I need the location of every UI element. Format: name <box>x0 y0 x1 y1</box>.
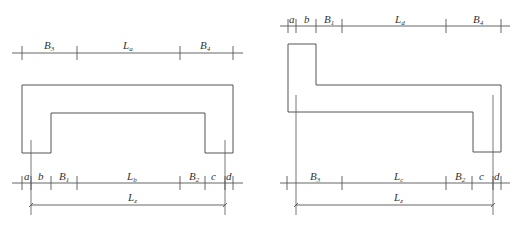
left-overall-dimension: Lz <box>29 191 227 207</box>
left-top-dimension: B3 La B4 <box>12 39 243 60</box>
dim-label-B3: B3 <box>310 170 321 184</box>
dim-label-Lc: Lc <box>393 170 404 184</box>
left-figure: B3 La B4 a b B1 Lb B2 c d <box>12 39 243 215</box>
dim-label-B1: B1 <box>324 13 334 27</box>
dim-label-Ld: Ld <box>394 13 405 27</box>
dim-label-c: c <box>479 170 484 182</box>
dim-label-B4: B4 <box>473 13 484 27</box>
dim-label-B2: B2 <box>189 170 200 184</box>
right-bottom-dimension: B3 Lc B2 c d <box>280 170 510 190</box>
right-top-dimension: a b B1 Ld B4 <box>280 13 510 33</box>
dim-label-Lz: Lz <box>127 191 137 205</box>
right-section-shape <box>288 44 501 152</box>
dim-label-Lz: Lz <box>393 191 403 205</box>
dim-label-B4: B4 <box>200 39 211 53</box>
dim-label-a: a <box>289 13 295 25</box>
dim-label-La: La <box>122 39 133 53</box>
dim-label-a: a <box>24 170 30 182</box>
dim-label-c: c <box>211 170 216 182</box>
dim-label-B2: B2 <box>455 170 466 184</box>
right-figure: a b B1 Ld B4 B3 Lc B2 c d <box>280 13 510 215</box>
diagram-canvas: B3 La B4 a b B1 Lb B2 c d <box>0 0 523 227</box>
dim-label-B3: B3 <box>44 39 55 53</box>
dim-label-B1: B1 <box>59 170 69 184</box>
left-bottom-dimension: a b B1 Lb B2 c d <box>12 170 243 190</box>
dim-label-Lb: Lb <box>126 170 137 184</box>
dim-label-b: b <box>38 170 44 182</box>
dim-label-b: b <box>304 13 310 25</box>
dim-label-d: d <box>494 170 500 182</box>
right-overall-dimension: Lz <box>294 191 495 207</box>
dim-label-d: d <box>226 170 232 182</box>
left-section-shape <box>22 85 233 153</box>
